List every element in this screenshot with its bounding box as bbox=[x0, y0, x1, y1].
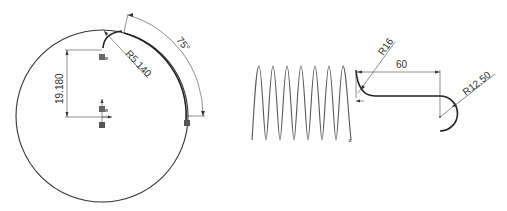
left-sketch: 19.180 R5.140 75° bbox=[16, 13, 205, 202]
dim-r16: R16 bbox=[376, 36, 396, 58]
fixed-relation-icon[interactable] bbox=[99, 122, 105, 128]
dim-60: 60 bbox=[396, 59, 408, 70]
fixed-relation-icon[interactable] bbox=[184, 120, 190, 126]
spring-helix[interactable] bbox=[252, 66, 351, 140]
dim-19-180: 19.180 bbox=[54, 73, 65, 104]
relation-badge-icon bbox=[105, 109, 108, 112]
length-60-dimension[interactable]: 60 bbox=[357, 59, 440, 117]
sweep-profile-path[interactable] bbox=[356, 70, 458, 131]
radius-dimension[interactable]: R5.140 bbox=[104, 31, 154, 79]
spring-end-marker: × bbox=[348, 137, 352, 144]
coincident-relation-icon[interactable] bbox=[99, 106, 105, 112]
r16-dimension[interactable]: R16 bbox=[358, 36, 396, 93]
dim-r5-140: R5.140 bbox=[124, 48, 154, 79]
coincident-relation-icon[interactable] bbox=[99, 54, 105, 60]
cad-drawing-canvas: 19.180 R5.140 75° bbox=[0, 0, 507, 211]
dim-r12-50: R12.50 bbox=[460, 69, 493, 98]
dim-75-deg: 75° bbox=[174, 34, 192, 53]
r12-50-dimension[interactable]: R12.50 bbox=[439, 69, 495, 118]
right-sketch: × R16 60 R12.50 bbox=[252, 36, 495, 144]
relation-badge-icon bbox=[105, 57, 108, 60]
